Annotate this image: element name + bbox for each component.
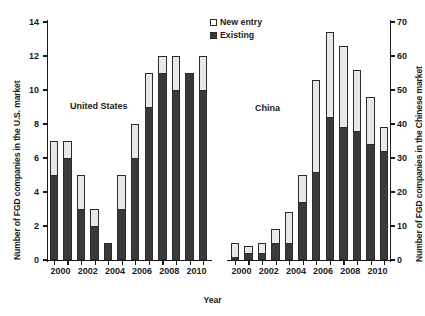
- x-axis-label: Year: [0, 295, 425, 305]
- x-tick-label: 2000: [232, 266, 252, 276]
- y-tick-label: 60: [397, 52, 421, 61]
- y-tick-label: 20: [397, 188, 421, 197]
- x-tick-label: 2004: [105, 266, 125, 276]
- x-tick-mark: [357, 261, 358, 265]
- y-tick-label: 4: [17, 188, 39, 197]
- x-tick-mark: [149, 261, 150, 265]
- y-tick-mark: [391, 157, 395, 158]
- bar-segment-new-entry: [366, 97, 374, 145]
- bar-unitedstates-2000: [50, 141, 58, 260]
- bar-segment-new-entry: [90, 209, 98, 226]
- bar-segment-existing: [131, 158, 139, 260]
- bar-segment-existing: [380, 151, 388, 260]
- bar-china-2010: [366, 97, 374, 260]
- x-tick-mark: [122, 261, 123, 265]
- bar-segment-new-entry: [339, 46, 347, 128]
- x-tick-mark: [176, 261, 177, 265]
- x-tick-label: 2002: [259, 266, 279, 276]
- bar-segment-existing: [158, 73, 166, 260]
- bar-unitedstates-2005: [117, 175, 125, 260]
- y-tick-label: 40: [397, 120, 421, 129]
- x-tick-mark: [162, 261, 163, 265]
- bar-segment-existing: [326, 117, 334, 260]
- bar-segment-new-entry: [199, 56, 207, 90]
- bar-segment-new-entry: [271, 229, 279, 243]
- legend-item-existing: Existing: [210, 29, 262, 42]
- x-tick-label: 2006: [313, 266, 333, 276]
- axis-spine-bottom-china: [227, 260, 391, 261]
- bar-china-2007: [326, 32, 334, 260]
- x-tick-mark: [81, 261, 82, 265]
- x-tick-mark: [276, 261, 277, 265]
- x-tick-label: 2010: [186, 266, 206, 276]
- bar-unitedstates-2006: [131, 124, 139, 260]
- legend-swatch-new-entry: [210, 19, 217, 26]
- panel-annotation-china: China: [255, 103, 280, 113]
- plot-area-us: [47, 22, 210, 260]
- y-tick-label: 10: [397, 222, 421, 231]
- bar-unitedstates-2010: [185, 73, 193, 260]
- y-tick-mark: [391, 123, 395, 124]
- legend-item-new-entry: New entry: [210, 16, 262, 29]
- y-axis-label-left: Number of FGD companies in the U.S. mark…: [12, 81, 22, 260]
- bar-unitedstates-2007: [145, 73, 153, 260]
- bar-china-2008: [339, 46, 347, 260]
- y-tick-label: 50: [397, 86, 421, 95]
- bar-china-2002: [258, 243, 266, 260]
- bar-segment-existing: [271, 243, 279, 260]
- bar-segment-existing: [231, 257, 239, 260]
- y-tick-label: 6: [17, 154, 39, 163]
- bar-china-2005: [298, 175, 306, 260]
- bar-segment-existing: [312, 172, 320, 260]
- x-tick-label: 2010: [367, 266, 387, 276]
- bar-segment-existing: [244, 253, 252, 260]
- bar-unitedstates-2009: [172, 56, 180, 260]
- bar-segment-existing: [285, 243, 293, 260]
- y-tick-mark: [391, 89, 395, 90]
- x-tick-label: 2008: [340, 266, 360, 276]
- x-tick-label: 2002: [78, 266, 98, 276]
- bar-unitedstates-2003: [90, 209, 98, 260]
- bar-segment-new-entry: [77, 175, 85, 209]
- y-tick-label: 0: [397, 256, 421, 265]
- bar-segment-new-entry: [50, 141, 58, 175]
- y-tick-label: 70: [397, 18, 421, 27]
- x-tick-mark: [371, 261, 372, 265]
- bar-china-2004: [285, 212, 293, 260]
- bar-segment-existing: [50, 175, 58, 260]
- bar-segment-new-entry: [131, 124, 139, 158]
- bar-segment-new-entry: [285, 212, 293, 243]
- bar-segment-existing: [185, 73, 193, 260]
- bar-segment-existing: [145, 107, 153, 260]
- bar-china-2000: [231, 243, 239, 260]
- bar-segment-existing: [339, 127, 347, 260]
- bar-segment-new-entry: [231, 243, 239, 257]
- bar-unitedstates-2011: [199, 56, 207, 260]
- bar-segment-existing: [117, 209, 125, 260]
- x-tick-mark: [316, 261, 317, 265]
- y-tick-mark: [391, 21, 395, 22]
- y-tick-label: 30: [397, 154, 421, 163]
- bar-segment-new-entry: [258, 243, 266, 253]
- bar-segment-new-entry: [172, 56, 180, 90]
- bar-segment-existing: [258, 253, 266, 260]
- bar-china-2006: [312, 80, 320, 260]
- bar-segment-new-entry: [63, 141, 71, 158]
- x-tick-mark: [135, 261, 136, 265]
- y-tick-label: 2: [17, 222, 39, 231]
- x-tick-mark: [95, 261, 96, 265]
- bar-segment-existing: [172, 90, 180, 260]
- bar-segment-new-entry: [353, 70, 361, 131]
- bar-segment-existing: [353, 131, 361, 260]
- panel-annotation-us: United States: [70, 101, 128, 111]
- bar-segment-existing: [63, 158, 71, 260]
- bar-segment-new-entry: [312, 80, 320, 172]
- bar-china-2009: [353, 70, 361, 260]
- axis-spine-bottom-us: [47, 260, 212, 261]
- bar-segment-new-entry: [117, 175, 125, 209]
- bar-segment-new-entry: [244, 246, 252, 253]
- bar-segment-new-entry: [145, 73, 153, 107]
- y-axis-label-right: Number of FGD companies in the Chinese m…: [414, 66, 424, 262]
- plot-area-china: [228, 22, 391, 260]
- chart-figure: Number of FGD companies in the U.S. mark…: [0, 0, 425, 316]
